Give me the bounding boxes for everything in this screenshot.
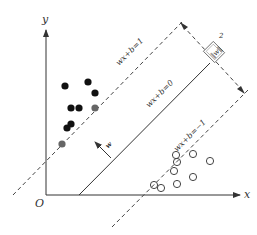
svm-diagram: y x O ‖w‖ 2 w wx+b=1 wx+b=0 wx+b=−1 bbox=[0, 0, 257, 235]
margin-label: ‖w‖ bbox=[203, 41, 225, 63]
open-data-point bbox=[157, 184, 164, 191]
open-data-point bbox=[172, 151, 179, 158]
open-data-point bbox=[206, 157, 213, 164]
support-vector-point bbox=[91, 104, 98, 111]
margin-label-numerator: 2 bbox=[218, 32, 224, 40]
open-data-point bbox=[170, 167, 177, 174]
y-axis-label: y bbox=[41, 13, 49, 26]
filled-data-point bbox=[67, 104, 74, 111]
normal-vector-label: w bbox=[103, 139, 114, 150]
open-data-point bbox=[189, 173, 196, 180]
margin-arrow-top-icon bbox=[180, 22, 188, 30]
filled-data-point bbox=[84, 78, 91, 85]
open-data-point bbox=[189, 150, 196, 157]
filled-data-point bbox=[75, 104, 82, 111]
open-data-point bbox=[173, 180, 180, 187]
hyperplane-label: wx+b=0 bbox=[144, 78, 175, 109]
x-axis-label: x bbox=[244, 188, 251, 201]
filled-data-point bbox=[61, 82, 68, 89]
margin-arrow-bottom-icon bbox=[237, 86, 245, 94]
lower-margin-line bbox=[112, 88, 250, 227]
filled-data-point bbox=[67, 120, 74, 127]
upper-margin-label: wx+b=1 bbox=[114, 36, 145, 67]
origin-label: O bbox=[35, 197, 44, 210]
filled-data-point bbox=[91, 89, 98, 96]
support-vector-point bbox=[58, 140, 65, 147]
